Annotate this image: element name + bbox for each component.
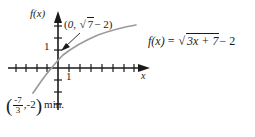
intercept-radical: √7 xyxy=(79,17,95,30)
y-axis-tick-label-1: 1 xyxy=(44,40,50,52)
min-y-value: -2 xyxy=(27,98,36,110)
radical-sign-icon: √ xyxy=(178,34,185,48)
y-intercept-annotation: (0, √7− 2) xyxy=(64,17,112,30)
min-close-paren: ) xyxy=(36,95,42,116)
equation-equals: = xyxy=(168,34,175,48)
min-fraction-denominator: 3 xyxy=(13,106,23,115)
y-axis-label: f(x) xyxy=(30,7,45,19)
equation-radical: √3x + 7 xyxy=(177,33,219,49)
min-note: min. xyxy=(44,98,64,110)
minimum-annotation: (-73,-2)min. xyxy=(6,96,64,116)
radical-sign-icon: √ xyxy=(80,18,86,30)
function-graph-figure xyxy=(0,0,255,137)
intercept-x-value: 0, xyxy=(68,18,76,30)
intercept-close-paren: ) xyxy=(109,18,113,30)
min-x-fraction: -73 xyxy=(13,96,23,116)
equation-tail: − 2 xyxy=(219,34,235,48)
function-curve xyxy=(33,25,136,93)
function-equation: f(x) = √3x + 7− 2 xyxy=(148,33,235,49)
y-axis-arrowhead xyxy=(54,11,62,23)
equation-radicand: 3x + 7 xyxy=(186,33,219,49)
intercept-radicand: 7 xyxy=(87,17,95,30)
x-axis-tick-label-1: 1 xyxy=(66,70,72,82)
x-axis-label: x xyxy=(141,70,145,81)
equation-lhs: f(x) xyxy=(148,34,165,48)
min-open-paren: ( xyxy=(6,95,12,116)
intercept-tail: − 2 xyxy=(94,18,108,30)
